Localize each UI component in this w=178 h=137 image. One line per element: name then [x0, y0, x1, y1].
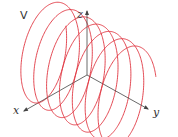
helix-curve-back [43, 2, 156, 137]
helix-segment-front [98, 48, 127, 137]
z-axis-arrowhead [85, 10, 89, 15]
panel-label: V [20, 9, 28, 22]
helix-diagram: V z x y [0, 0, 178, 137]
helix-segment-front [85, 41, 114, 137]
x-axis-arrowhead [23, 107, 28, 111]
z-axis-label: z [76, 8, 83, 21]
helix-segment-back [114, 39, 143, 137]
x-axis-label: x [13, 104, 20, 117]
y-axis-arrowhead [144, 105, 149, 109]
helix-segment-front [72, 33, 101, 132]
y-axis-label: y [152, 106, 160, 119]
helix-curve-front [21, 4, 127, 137]
